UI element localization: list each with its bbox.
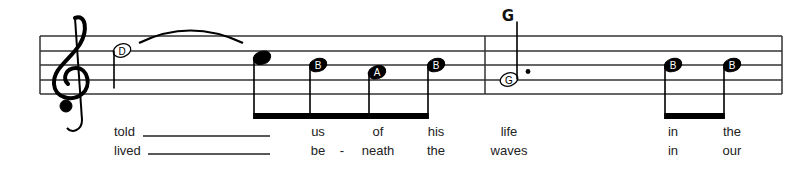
note-b: B (425, 56, 446, 119)
lyric-v2-be: be (311, 144, 325, 157)
tie (139, 31, 243, 44)
lyric-v1-life: life (501, 125, 518, 138)
beam (253, 113, 429, 119)
note-b: B (662, 56, 683, 119)
treble-clef-icon (54, 17, 88, 130)
lyric-v1-in: in (668, 125, 678, 138)
lyric-v1-us: us (311, 125, 325, 138)
note-letter: G (505, 75, 513, 86)
beam (664, 113, 725, 119)
lyric-v2-waves: waves (491, 144, 528, 157)
note-a: A (366, 63, 387, 119)
chord-symbol-g: G (502, 7, 514, 25)
note-letter: B (670, 60, 677, 71)
note-g: G (498, 22, 530, 89)
lyric-v1-his: his (428, 125, 445, 138)
note-b: B (721, 56, 742, 119)
note-letter: D (118, 46, 125, 57)
lyric-v2-lived: lived (114, 144, 141, 157)
note-letter: B (315, 60, 322, 71)
note-b: B (307, 56, 328, 119)
lyric-hyphen: - (340, 144, 344, 157)
augmentation-dot (526, 69, 531, 74)
note-letter: B (433, 60, 440, 71)
note-letter: A (374, 67, 381, 78)
note-letter: B (729, 60, 736, 71)
lyric-v1-of: of (373, 125, 384, 138)
lyric-v1-told: told (114, 125, 135, 138)
lyric-v2-in: in (668, 144, 678, 157)
lyric-v2-neath: neath (362, 144, 395, 157)
lyric-v1-the: the (723, 125, 741, 138)
note-c (251, 49, 272, 119)
lyric-v2-our: our (723, 144, 742, 157)
lyric-v2-the: the (427, 144, 445, 157)
